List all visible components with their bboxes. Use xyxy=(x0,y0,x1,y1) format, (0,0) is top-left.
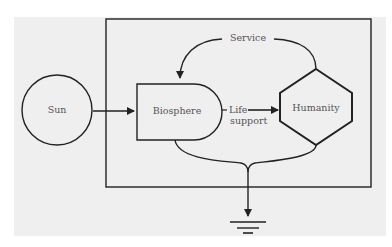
humanity-sink-curve xyxy=(248,145,316,172)
service-label: Service xyxy=(230,32,266,43)
diagram-canvas: Sun Biosphere Humanity Service Life supp… xyxy=(0,0,392,247)
ground-icon xyxy=(230,222,266,233)
humanity-node: Humanity xyxy=(280,69,352,145)
biosphere-sink-curve xyxy=(175,140,248,172)
humanity-label: Humanity xyxy=(292,102,340,113)
biosphere-label: Biosphere xyxy=(153,105,202,116)
life-support-label-line1: Life xyxy=(229,104,248,115)
sun-label: Sun xyxy=(48,104,67,115)
service-arc-left xyxy=(180,39,222,78)
sun-node: Sun xyxy=(22,75,92,145)
life-support-edge: Life support xyxy=(222,104,278,126)
service-arc-right xyxy=(274,39,316,69)
service-edge: Service xyxy=(180,32,316,78)
biosphere-node: Biosphere xyxy=(137,84,222,140)
diagram-svg: Sun Biosphere Humanity Service Life supp… xyxy=(0,0,392,247)
life-support-label-line2: support xyxy=(230,115,267,126)
